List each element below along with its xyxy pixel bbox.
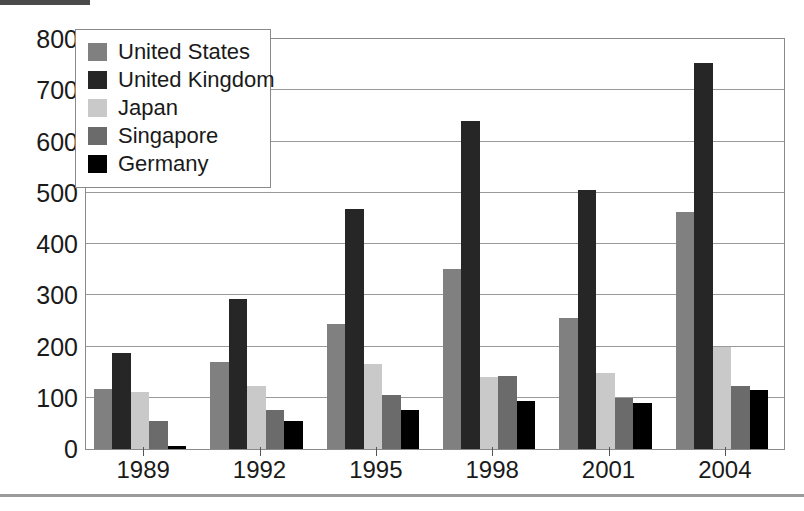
x-axis-tick-label-1989: 1989: [116, 455, 169, 485]
legend-item-label: United States: [118, 41, 250, 63]
bar-singapore-1989: [149, 421, 168, 449]
y-axis-tick-label: 600: [36, 129, 78, 154]
bar-group-2004: [668, 39, 784, 449]
bar-group-2001: [551, 39, 667, 449]
legend-swatch-icon: [88, 155, 107, 173]
legend-swatch-icon: [88, 43, 107, 61]
legend-item-label: Japan: [118, 97, 178, 119]
bar-united-states-1998: [443, 269, 462, 449]
bar-germany-2004: [750, 390, 769, 449]
bar-united-states-2004: [676, 212, 695, 449]
bar-japan-1989: [131, 392, 150, 449]
legend-swatch-icon: [88, 127, 107, 145]
y-axis-tick-label: 400: [36, 232, 78, 257]
bar-united-kingdom-1995: [345, 209, 364, 449]
bar-united-states-1989: [94, 389, 113, 449]
bar-singapore-1995: [382, 395, 401, 449]
x-axis-tick-label-2001: 2001: [582, 455, 635, 485]
y-axis-tick-label: 200: [36, 334, 78, 359]
grouped-bar-chart: 0100200300400500600700800 19891992199519…: [0, 0, 804, 490]
x-axis-tick-label-2004: 2004: [698, 455, 751, 485]
bar-japan-2004: [713, 347, 732, 450]
legend-item-label: Germany: [118, 153, 208, 175]
y-axis: 0100200300400500600700800: [0, 38, 78, 450]
bar-united-states-1995: [327, 324, 346, 449]
bar-united-kingdom-1998: [461, 121, 480, 449]
x-axis: 198919921995199820012004: [85, 455, 785, 491]
y-axis-tick-label: 700: [36, 78, 78, 103]
chart-legend: United StatesUnited KingdomJapanSingapor…: [75, 29, 271, 188]
bar-japan-1992: [247, 386, 266, 449]
bar-singapore-2001: [615, 398, 634, 449]
legend-swatch-icon: [88, 71, 107, 89]
bar-united-kingdom-2004: [694, 63, 713, 449]
legend-item-united-kingdom[interactable]: United Kingdom: [88, 66, 260, 94]
bar-germany-2001: [633, 403, 652, 449]
y-axis-tick-label: 100: [36, 385, 78, 410]
bar-germany-1992: [284, 421, 303, 449]
bar-japan-1998: [480, 377, 499, 449]
legend-swatch-icon: [88, 99, 107, 117]
bar-united-kingdom-2001: [578, 190, 597, 449]
bar-germany-1998: [517, 401, 536, 449]
bar-group-1995: [319, 39, 435, 449]
bar-united-kingdom-1992: [229, 299, 248, 449]
x-axis-tick-label-1992: 1992: [233, 455, 286, 485]
y-axis-tick-label: 0: [64, 437, 78, 462]
y-axis-tick-label: 500: [36, 180, 78, 205]
legend-item-label: Singapore: [118, 125, 218, 147]
bar-singapore-1998: [498, 376, 517, 449]
horizontal-rule: [0, 494, 804, 497]
bar-united-states-2001: [559, 318, 578, 449]
bar-singapore-2004: [731, 386, 750, 449]
x-axis-tick-label-1998: 1998: [465, 455, 518, 485]
bar-united-states-1992: [210, 362, 229, 449]
bar-germany-1995: [401, 410, 420, 449]
bar-singapore-1992: [266, 410, 285, 449]
bar-germany-1989: [168, 446, 187, 449]
bar-united-kingdom-1989: [112, 353, 131, 449]
bar-japan-1995: [364, 364, 383, 449]
y-axis-tick-label: 800: [36, 27, 78, 52]
bar-group-1998: [435, 39, 551, 449]
legend-item-japan[interactable]: Japan: [88, 94, 260, 122]
legend-item-germany[interactable]: Germany: [88, 150, 260, 178]
x-axis-tick-label-1995: 1995: [349, 455, 402, 485]
y-axis-tick-label: 300: [36, 283, 78, 308]
legend-item-singapore[interactable]: Singapore: [88, 122, 260, 150]
legend-item-united-states[interactable]: United States: [88, 38, 260, 66]
bar-japan-2001: [596, 373, 615, 449]
legend-item-label: United Kingdom: [118, 69, 275, 91]
